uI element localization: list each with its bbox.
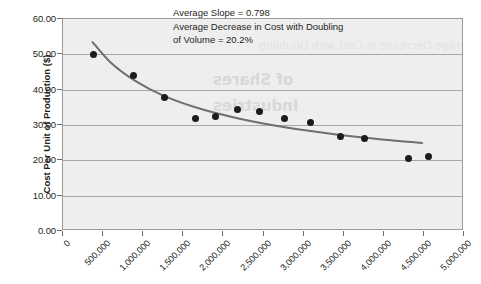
x-tick-mark [303,231,304,236]
x-tick-label: 3,000,000 [278,238,313,273]
data-point [307,119,314,126]
x-tick-label: 500,000 [83,238,113,268]
x-tick-label: 1,500,000 [158,238,193,273]
x-tick-label: 4,000,000 [358,238,393,273]
chart-annotation: Average Slope = 0.798 Average Decrease i… [173,6,403,47]
x-tick-mark [343,231,344,236]
data-point [192,115,199,122]
trendline [63,19,462,229]
x-tick-mark [383,231,384,236]
x-tick-label: 0 [62,238,73,249]
x-tick-mark [102,231,103,236]
x-tick-mark [62,231,63,236]
cost-per-unit-scatter-chart: Cost Per Unit of Production ($) 0.0010.0… [0,0,481,284]
y-tick-label: 0.00 [10,225,56,236]
x-tick-mark [463,231,464,236]
annotation-line-1: Average Slope = 0.798 [173,6,403,20]
x-tick-label: 4,500,000 [398,238,433,273]
x-axis: 0500,0001,000,0001,500,0002,000,0002,500… [62,231,463,284]
y-tick-label: 50.00 [10,48,56,59]
annotation-line-3: of Volume = 20.2% [173,33,403,47]
x-tick-mark [182,231,183,236]
x-tick-mark [222,231,223,236]
y-tick-label: 30.00 [10,119,56,130]
x-tick-mark [263,231,264,236]
y-tick-label: 40.00 [10,83,56,94]
x-tick-mark [142,231,143,236]
data-point [337,133,344,140]
data-point [212,113,219,120]
x-tick-label: 2,000,000 [198,238,233,273]
x-tick-label: 2,500,000 [238,238,273,273]
x-tick-label: 5,000,000 [438,238,473,273]
x-tick-label: 3,500,000 [318,238,353,273]
y-tick-label: 20.00 [10,154,56,165]
data-point [281,115,288,122]
data-point [161,94,168,101]
y-tick-label: 60.00 [10,13,56,24]
y-tick-label: 10.00 [10,189,56,200]
x-tick-label: 1,000,000 [118,238,153,273]
x-tick-mark [423,231,424,236]
annotation-line-2: Average Decrease in Cost with Doubling [173,20,403,34]
plot-area: Average Decrease in Cost with Doubling o… [62,18,463,230]
data-point [425,153,432,160]
